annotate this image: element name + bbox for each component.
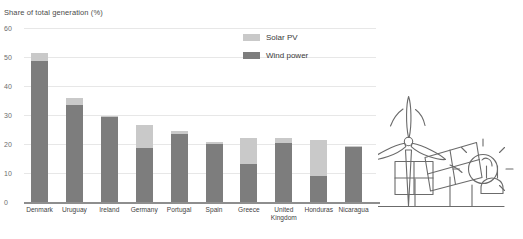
bar-group[interactable] — [345, 146, 362, 202]
solar-pv-swatch — [243, 34, 260, 41]
plot-area: 0102030405060 DenmarkUruguayIrelandGerma… — [0, 0, 385, 239]
bar-group[interactable] — [31, 53, 48, 202]
bar-segment-wind-power[interactable] — [101, 117, 118, 202]
bar-segment-wind-power[interactable] — [310, 176, 327, 202]
motion-arc-right — [416, 110, 426, 126]
bar-segment-solar-pv[interactable] — [310, 140, 327, 176]
bar-segment-wind-power[interactable] — [171, 134, 188, 202]
bar-segment-solar-pv[interactable] — [240, 138, 257, 164]
turbine-blade-right — [411, 143, 445, 159]
chart-legend: Solar PVWind power — [243, 33, 308, 69]
bar-segment-wind-power[interactable] — [31, 61, 48, 202]
legend-item[interactable]: Wind power — [243, 51, 308, 60]
bar-segment-wind-power[interactable] — [345, 147, 362, 202]
x-axis-category-label: United Kingdom — [265, 206, 303, 221]
bar-group[interactable] — [66, 98, 83, 202]
motion-arc-left — [391, 109, 404, 126]
sun-ray-nw — [462, 148, 467, 153]
x-axis-category-label: Nicaragua — [335, 206, 373, 214]
wind-power-swatch — [243, 52, 260, 59]
chart-root: Share of total generation (%) 0102030405… — [0, 0, 523, 239]
bar-segment-wind-power[interactable] — [275, 143, 292, 202]
bar-segment-solar-pv[interactable] — [31, 53, 48, 62]
bar-group[interactable] — [310, 140, 327, 202]
bar-segment-wind-power[interactable] — [66, 105, 83, 202]
x-axis-category-label: Uruguay — [55, 206, 93, 214]
legend-item-label: Solar PV — [266, 33, 298, 42]
renewable-energy-illustration — [378, 38, 523, 239]
legend-item[interactable]: Solar PV — [243, 33, 308, 42]
turbine-blade-left — [378, 143, 406, 159]
sun-ray-se — [500, 186, 505, 191]
x-axis-category-label: Portugal — [160, 206, 198, 214]
x-axis-category-label: Greece — [230, 206, 268, 214]
bar-segment-wind-power[interactable] — [206, 144, 223, 202]
bar-group[interactable] — [206, 142, 223, 202]
bar-segment-wind-power[interactable] — [240, 164, 257, 202]
bar-segment-wind-power[interactable] — [136, 148, 153, 202]
x-axis-category-label: Germany — [125, 206, 163, 214]
bar-segment-solar-pv[interactable] — [136, 125, 153, 148]
plug-cable — [482, 158, 492, 166]
x-axis-category-label: Spain — [195, 206, 233, 214]
bar-group[interactable] — [275, 138, 292, 202]
bar-group[interactable] — [171, 131, 188, 202]
turbine-blade-up — [407, 97, 411, 138]
sun-ray-ne — [500, 148, 505, 153]
bar-group[interactable] — [240, 138, 257, 202]
legend-item-label: Wind power — [266, 51, 308, 60]
bar-group[interactable] — [101, 116, 118, 202]
x-axis-category-label: Ireland — [90, 206, 128, 214]
x-axis-category-label: Honduras — [300, 206, 338, 214]
x-axis-category-label: Denmark — [21, 206, 59, 214]
bar-group[interactable] — [136, 125, 153, 202]
bar-series-container — [0, 0, 385, 239]
